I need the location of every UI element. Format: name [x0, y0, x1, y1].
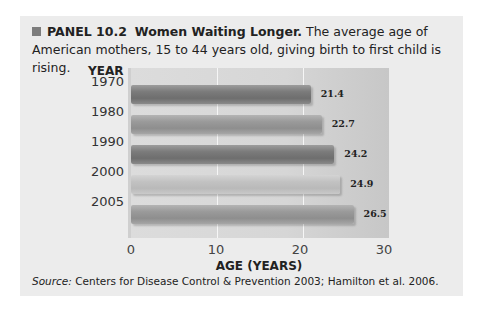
value-label-2005: 26.5: [364, 208, 387, 219]
bar-1970: [131, 85, 311, 104]
value-label-2000: 24.9: [350, 178, 373, 189]
value-label-1970: 21.4: [321, 88, 344, 99]
chart-panel: PANEL 10.2Women Waiting Longer. The aver…: [20, 16, 463, 296]
source-note: Source: Centers for Disease Control & Pr…: [32, 275, 439, 287]
bar-1980: [131, 115, 322, 134]
bar-2000: [131, 175, 340, 194]
value-label-1980: 22.7: [332, 118, 355, 129]
source-label: Source:: [32, 275, 72, 287]
bar-1990: [131, 145, 334, 164]
panel-title: Women Waiting Longer.: [135, 24, 302, 39]
source-text: Centers for Disease Control & Prevention…: [75, 275, 438, 287]
y-tick-2005: 2005: [88, 194, 124, 209]
x-tick-10: 10: [201, 242, 231, 257]
y-tick-2000: 2000: [88, 164, 124, 179]
y-tick-1970: 1970: [88, 74, 124, 89]
x-tick-20: 20: [285, 242, 315, 257]
x-tick-30: 30: [369, 242, 399, 257]
panel-label: PANEL 10.2: [47, 24, 127, 39]
square-bullet-icon: [32, 27, 41, 36]
y-tick-1990: 1990: [88, 134, 124, 149]
value-label-1990: 24.2: [344, 148, 367, 159]
x-tick-0: 0: [116, 242, 146, 257]
x-axis-label: AGE (YEARS): [128, 259, 390, 273]
bar-2005: [131, 205, 354, 224]
y-tick-1980: 1980: [88, 104, 124, 119]
